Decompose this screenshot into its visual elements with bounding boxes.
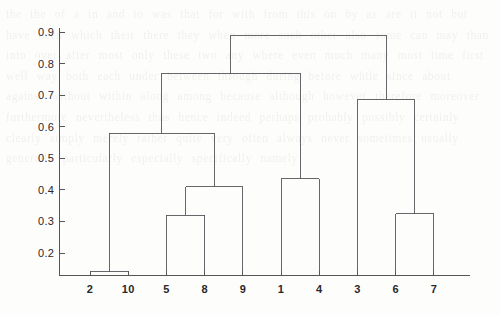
dendrogram-figure: the the of a in and to was that for with… [0,0,501,315]
merge-m4 [281,179,319,276]
leaf-label-5: 5 [163,283,169,295]
leaf-label-10: 10 [122,283,135,295]
y-axis-tick-label: 0.3 [16,215,54,227]
merge-m2 [166,215,204,275]
leaf-label-3: 3 [354,283,360,295]
y-axis-tick-label: 0.2 [16,247,54,259]
merge-m6 [109,133,214,272]
leaf-label-7: 7 [431,283,437,295]
merge-m8 [162,73,300,179]
y-axis-tick-label: 0.8 [16,58,54,70]
dendrogram-canvas [0,0,501,315]
leaf-label-9: 9 [240,283,246,295]
merge-m7 [357,100,414,276]
y-axis-tick-label: 0.7 [16,89,54,101]
merge-m3 [186,187,243,276]
leaf-label-1: 1 [278,283,284,295]
leaf-label-8: 8 [201,283,207,295]
leaf-label-6: 6 [392,283,398,295]
y-axis-tick-label: 0.5 [16,152,54,164]
merge-m5 [396,214,434,276]
plot-area: 0.20.30.40.50.60.70.80.9 21058914367 [0,0,501,315]
leaf-label-2: 2 [87,283,93,295]
merge-m9 [231,35,386,100]
dendrogram-tree [90,35,434,275]
axes-group [60,28,471,276]
leaf-label-4: 4 [316,283,322,295]
y-axis-tick-label: 0.6 [16,121,54,133]
y-axis-tick-label: 0.9 [16,26,54,38]
y-axis-tick-label: 0.4 [16,184,54,196]
